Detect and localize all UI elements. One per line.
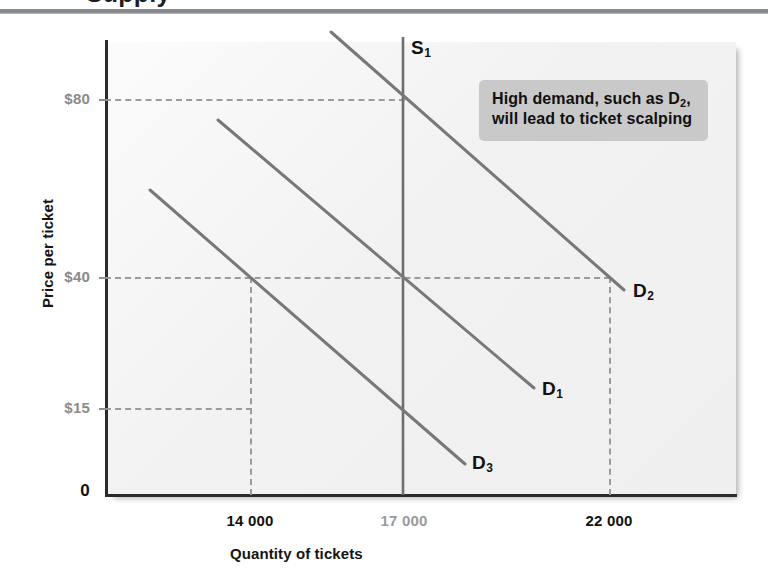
- gridline-quantity-22000: [609, 277, 611, 495]
- curve-label-s1-letter: S: [411, 37, 424, 58]
- curve-label-d1-letter: D: [542, 378, 556, 399]
- y-tick-label-origin: 0: [20, 481, 90, 501]
- figure-heading-clip: Supply: [0, 0, 768, 9]
- curve-label-d2: D2: [633, 280, 653, 302]
- x-tick-label-22000: 22 000: [554, 512, 664, 529]
- annotation-line-3: scalping: [626, 110, 692, 127]
- figure-heading: Supply: [86, 0, 171, 8]
- y-tick-label-15: $15: [20, 399, 90, 416]
- curve-label-s1: S1: [411, 37, 430, 59]
- y-axis: [105, 40, 108, 497]
- curve-label-d1-sub: 1: [556, 387, 563, 401]
- curve-label-d3-letter: D: [472, 452, 486, 473]
- y-tick-mark-15: [99, 408, 108, 410]
- y-tick-mark-80: [99, 99, 108, 101]
- curve-label-s1-sub: 1: [424, 46, 431, 60]
- x-axis-title: Quantity of tickets: [230, 545, 363, 562]
- gridline-quantity-14000: [250, 277, 252, 495]
- gridline-price-40: [105, 277, 610, 279]
- y-axis-title: Price per ticket: [39, 164, 56, 344]
- supply-demand-figure: { "figure": { "heading": "Supply", "pane…: [0, 0, 768, 580]
- curve-label-d1: D1: [542, 378, 562, 400]
- y-tick-label-80: $80: [20, 90, 90, 107]
- annotation-callout: High demand, such as D2, will lead to ti…: [479, 80, 708, 141]
- gridline-price-15: [105, 408, 252, 410]
- annotation-d-letter: D: [668, 90, 680, 107]
- x-tick-label-17000: 17 000: [349, 512, 459, 529]
- x-axis: [105, 494, 737, 497]
- curve-label-d3-sub: 3: [486, 461, 493, 475]
- annotation-d-sub: 2: [680, 97, 686, 109]
- header-rule: [0, 9, 768, 14]
- y-tick-mark-40: [99, 277, 108, 279]
- curve-label-d3: D3: [472, 452, 492, 474]
- gridline-price-80: [105, 99, 405, 101]
- x-tick-label-14000: 14 000: [195, 512, 305, 529]
- annotation-line-1: High demand, such as: [492, 90, 664, 107]
- curve-label-d2-letter: D: [633, 280, 647, 301]
- curve-label-d2-sub: 2: [647, 289, 654, 303]
